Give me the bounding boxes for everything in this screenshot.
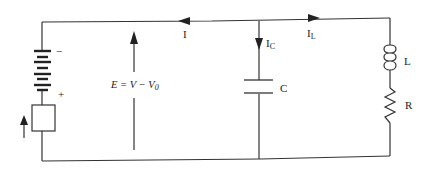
battery-minus-label: − — [56, 46, 62, 57]
current-ic-arrow-icon — [255, 38, 263, 50]
inductor-coil — [384, 45, 396, 70]
circuit-svg — [0, 0, 431, 170]
emf-equation-label: E = V − V0 — [111, 80, 159, 92]
capacitor-label: C — [280, 83, 287, 94]
generator-arrow-icon — [20, 115, 28, 125]
current-i-label: I — [183, 29, 187, 40]
emf-arrow-icon — [130, 31, 138, 44]
current-il-label: IL — [307, 28, 316, 41]
top-wire — [42, 18, 390, 22]
battery-plus-label: + — [58, 89, 64, 100]
current-il-arrow-icon — [308, 14, 320, 22]
circuit-diagram: − + I IC IL C L R E = V − V0 — [0, 0, 431, 170]
generator-box — [32, 105, 55, 131]
current-ic-label: IC — [266, 38, 275, 51]
capacitor — [244, 80, 273, 93]
inductor-label: L — [404, 56, 411, 67]
resistor-label: R — [405, 100, 412, 111]
battery — [34, 51, 51, 90]
bottom-wire — [42, 156, 390, 161]
current-i-arrow-icon — [178, 17, 190, 25]
resistor-zigzag — [385, 88, 395, 123]
